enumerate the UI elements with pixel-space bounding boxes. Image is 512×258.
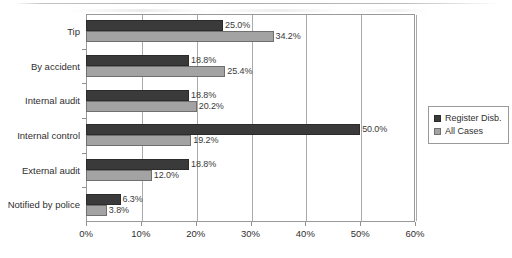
- category-label: Internal audit: [0, 95, 80, 106]
- bar-value-label: 34.2%: [276, 31, 301, 42]
- bar-value-label: 20.2%: [199, 101, 224, 112]
- x-tick-label: 50%: [351, 228, 370, 239]
- gridline: [306, 15, 307, 221]
- bar-register-disb: [86, 194, 121, 205]
- legend-swatch-icon: [434, 128, 441, 135]
- category-label: Tip: [0, 26, 80, 37]
- x-tick-mark: [251, 222, 252, 226]
- scan-artifact-smudge: [70, 9, 430, 12]
- gridline: [197, 15, 198, 221]
- bar-value-label: 50.0%: [362, 124, 387, 135]
- scan-artifact-line: [14, 3, 500, 4]
- plot-area: [86, 14, 415, 222]
- bar-all-cases: [86, 31, 274, 42]
- bar-register-disb: [86, 124, 360, 135]
- bar-register-disb: [86, 55, 189, 66]
- bar-chart: 25.0%34.2%18.8%25.4%18.8%20.2%50.0%19.2%…: [0, 0, 512, 258]
- category-tick-mark: [82, 118, 86, 119]
- category-label: Notified by police: [0, 199, 80, 210]
- legend-item: Register Disb.: [434, 112, 502, 125]
- category-label: Internal control: [0, 130, 80, 141]
- x-tick-mark: [141, 222, 142, 226]
- bar-value-label: 25.0%: [225, 20, 250, 31]
- gridline: [142, 15, 143, 221]
- x-tick-label: 30%: [241, 228, 260, 239]
- bar-value-label: 3.8%: [109, 205, 129, 216]
- legend-swatch-icon: [434, 115, 441, 122]
- bar-all-cases: [86, 101, 197, 112]
- x-tick-mark: [86, 222, 87, 226]
- bar-value-label: 18.8%: [191, 90, 216, 101]
- gridline: [361, 15, 362, 221]
- bar-value-label: 25.4%: [227, 66, 252, 77]
- x-tick-label: 40%: [296, 228, 315, 239]
- chart-legend: Register Disb.All Cases: [428, 106, 509, 144]
- bar-register-disb: [86, 159, 189, 170]
- bar-all-cases: [86, 135, 191, 146]
- bar-value-label: 18.8%: [191, 159, 216, 170]
- x-tick-label: 20%: [186, 228, 205, 239]
- legend-item: All Cases: [434, 125, 502, 138]
- x-tick-label: 60%: [405, 228, 424, 239]
- bar-value-label: 18.8%: [191, 55, 216, 66]
- category-tick-mark: [82, 187, 86, 188]
- category-label: External audit: [0, 165, 80, 176]
- bar-all-cases: [86, 66, 225, 77]
- x-tick-mark: [305, 222, 306, 226]
- category-tick-mark: [82, 49, 86, 50]
- x-tick-label: 10%: [131, 228, 150, 239]
- gridline: [416, 15, 417, 221]
- legend-label: All Cases: [445, 126, 483, 137]
- legend-label: Register Disb.: [445, 113, 502, 124]
- category-tick-mark: [82, 153, 86, 154]
- x-tick-label: 0%: [79, 228, 93, 239]
- bar-all-cases: [86, 170, 152, 181]
- bar-register-disb: [86, 20, 223, 31]
- bar-all-cases: [86, 205, 107, 216]
- bar-value-label: 19.2%: [193, 135, 218, 146]
- gridline: [252, 15, 253, 221]
- x-tick-mark: [360, 222, 361, 226]
- category-label: By accident: [0, 61, 80, 72]
- bar-value-label: 12.0%: [154, 170, 179, 181]
- bar-value-label: 6.3%: [123, 194, 143, 205]
- x-tick-mark: [415, 222, 416, 226]
- bar-register-disb: [86, 90, 189, 101]
- x-tick-mark: [196, 222, 197, 226]
- category-tick-mark: [82, 83, 86, 84]
